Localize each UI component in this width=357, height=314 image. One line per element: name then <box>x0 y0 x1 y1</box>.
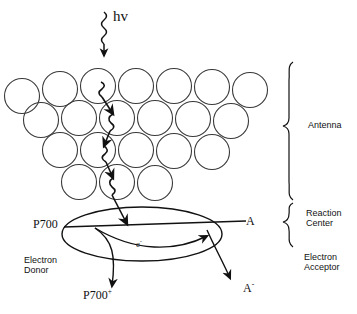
electron-donor-label: ElectronDonor <box>24 255 57 275</box>
electron-acceptor-line2: Acceptor <box>304 262 340 272</box>
acceptor-reduced-base: A <box>243 281 252 295</box>
antenna-circle <box>195 135 230 170</box>
antenna-circle <box>138 101 173 136</box>
p700-label: P700 <box>33 218 58 231</box>
electron-transfer-arrow <box>95 228 207 247</box>
acceptor-reduction-arrow <box>207 230 230 278</box>
antenna-circle <box>62 165 97 200</box>
p700-oxidized-label: P700+ <box>83 288 112 302</box>
electron-acceptor-line1: Electron <box>304 252 337 262</box>
antenna-label: Antenna <box>308 120 342 130</box>
antenna-circle <box>157 134 192 169</box>
photon-label: hv <box>113 8 128 25</box>
antenna-circle <box>100 165 135 200</box>
electron-donor-line2: Donor <box>24 265 49 275</box>
antenna-circle <box>233 73 268 108</box>
antenna-circle <box>157 69 192 104</box>
antenna-circle <box>43 72 78 107</box>
reaction-center-brace <box>283 203 293 247</box>
electron-acceptor-label: ElectronAcceptor <box>304 252 340 272</box>
antenna-circle <box>43 133 78 168</box>
photon-wavy-arrow <box>102 12 107 56</box>
antenna-circle <box>214 104 249 139</box>
antenna-circle <box>81 69 116 104</box>
acceptor-reduced-label: A- <box>243 281 254 295</box>
antenna-circle <box>5 79 40 114</box>
antenna-circle <box>100 101 135 136</box>
electron-donor-line1: Electron <box>24 255 57 265</box>
antenna-circle <box>81 133 116 168</box>
antenna-circle <box>176 102 211 137</box>
electron-label: e- <box>136 238 142 249</box>
antenna-circle <box>62 101 97 136</box>
reaction-center-label: ReactionCenter <box>306 208 342 228</box>
antenna-brace <box>283 62 293 200</box>
acceptor-reduced-charge: - <box>252 280 254 289</box>
antenna-circle <box>24 103 59 138</box>
antenna-circle <box>195 70 230 105</box>
acceptor-label: A <box>246 215 255 228</box>
reaction-center-label-line2: Center <box>306 218 333 228</box>
reaction-center-ellipse <box>62 207 222 261</box>
antenna-circle <box>119 133 154 168</box>
antenna-circle <box>119 69 154 104</box>
electron-charge: - <box>140 238 142 244</box>
photosynthesis-diagram: hv P700 P700+ A A- e- Antenna ReactionCe… <box>0 0 357 314</box>
energy-transfer-path <box>99 82 127 224</box>
p700-oxidized-charge: + <box>108 287 112 296</box>
antenna-circle-array <box>5 69 268 201</box>
p700-oxidized-base: P700 <box>83 288 108 302</box>
antenna-circle <box>138 166 173 201</box>
reaction-center-label-line1: Reaction <box>306 208 342 218</box>
